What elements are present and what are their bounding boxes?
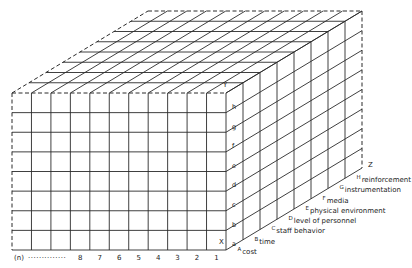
x-column-label-3: 3 xyxy=(175,255,179,262)
z-layer-text: reinforcement xyxy=(362,176,411,184)
x-column-label-4: 4 xyxy=(156,255,160,262)
z-layer-text: staff behavior xyxy=(276,228,324,236)
z-layer-marker: F xyxy=(323,195,326,201)
z-layer-text: instrumentation xyxy=(345,187,401,195)
z-layer-text: physical environment xyxy=(310,207,386,215)
x-column-label-7: 7 xyxy=(98,255,102,262)
y-row-label-a: a xyxy=(232,241,236,248)
cube-diagram xyxy=(0,0,412,268)
y-axis-label: Y xyxy=(223,82,227,89)
z-layer-label-physical-environment: Ephysical environment xyxy=(306,206,386,215)
y-row-label-f: f xyxy=(232,143,234,150)
z-layer-label-staff-behavior: Cstaff behavior xyxy=(272,226,325,235)
z-layer-marker: H xyxy=(357,174,361,180)
z-layer-marker: E xyxy=(306,205,309,211)
x-axis-dotted-leader: ·············· xyxy=(28,255,66,262)
x-column-label-5: 5 xyxy=(136,255,140,262)
z-layer-text: level of personnel xyxy=(294,217,357,225)
z-layer-text: time xyxy=(259,238,275,246)
y-row-label-e: e xyxy=(232,163,236,170)
x-axis-label: X xyxy=(219,239,224,246)
z-axis-label: Z xyxy=(368,162,373,169)
x-column-label-2: 2 xyxy=(195,255,199,262)
y-row-label-c: c xyxy=(232,202,236,209)
z-layer-marker: A xyxy=(238,246,242,252)
z-layer-label-level-of-personnel: Dlevel of personnel xyxy=(289,216,357,225)
y-row-label-d: d xyxy=(232,182,236,189)
z-layer-marker: B xyxy=(255,236,259,242)
x-column-label-8: 8 xyxy=(78,255,82,262)
z-layer-label-media: Fmedia xyxy=(323,196,349,205)
z-layer-label-time: Btime xyxy=(255,237,276,246)
y-row-label-b: b xyxy=(232,222,236,229)
z-layer-marker: C xyxy=(272,225,276,231)
z-layer-text: cost xyxy=(242,248,257,256)
z-layer-marker: G xyxy=(340,184,344,190)
x-axis-label-n: (n) xyxy=(14,255,24,262)
z-layer-text: media xyxy=(327,197,349,205)
x-column-label-6: 6 xyxy=(117,255,121,262)
y-row-label-g: g xyxy=(232,124,236,131)
z-layer-label-reinforcement: Hreinforcement xyxy=(357,175,412,184)
y-row-label-h: h xyxy=(232,104,236,111)
z-layer-marker: D xyxy=(289,215,293,221)
x-column-label-1: 1 xyxy=(214,255,218,262)
z-layer-label-instrumentation: Ginstrumentation xyxy=(340,185,401,194)
z-layer-label-cost: Acost xyxy=(238,247,257,256)
